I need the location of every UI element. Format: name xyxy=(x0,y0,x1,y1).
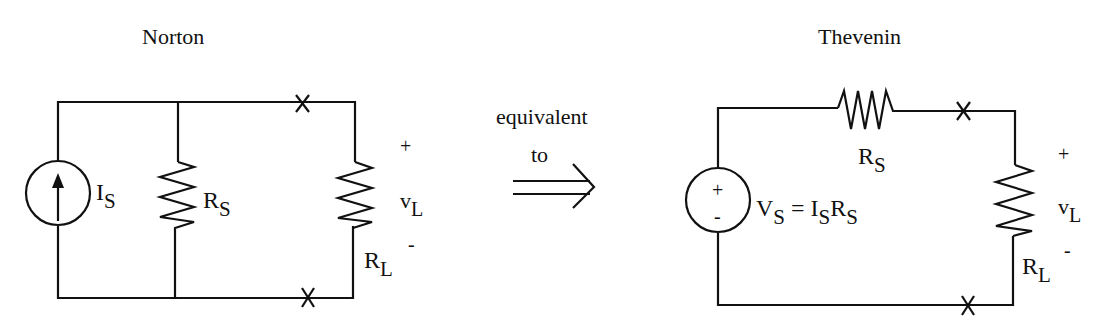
norton-rs-resistor xyxy=(160,162,194,298)
norton-current-source xyxy=(26,161,90,225)
thevenin-minus: - xyxy=(1064,240,1071,260)
thevenin-source-equation: VS = ISRS xyxy=(756,196,858,228)
norton-vl-label: vL xyxy=(400,190,423,219)
equivalent-label: equivalent xyxy=(496,106,588,128)
eq-v: V xyxy=(756,195,773,221)
thevenin-rs-resistor xyxy=(838,91,902,129)
norton-is-main: I xyxy=(96,179,104,205)
eq-i: I xyxy=(811,195,819,221)
circuit-diagram xyxy=(0,0,1114,333)
thevenin-vl-label: vL xyxy=(1058,196,1081,225)
norton-rl-resistor xyxy=(338,162,372,228)
eq-equals: = xyxy=(785,195,811,221)
norton-terminal-top-x xyxy=(296,95,309,112)
eq-r: R xyxy=(830,195,846,221)
current-arrow-icon xyxy=(52,173,64,188)
norton-rs-main: R xyxy=(203,187,219,213)
thevenin-rs-label: RS xyxy=(858,144,886,176)
thevenin-rl-sub: L xyxy=(1038,263,1051,287)
thevenin-vl-sub: L xyxy=(1069,204,1081,226)
norton-rs-label: RS xyxy=(203,188,231,220)
norton-source-label: IS xyxy=(96,180,116,212)
thevenin-plus: + xyxy=(1058,144,1069,164)
norton-left-wire-bottom xyxy=(58,226,353,298)
eq-v-sub: S xyxy=(773,205,785,229)
eq-i-sub: S xyxy=(819,205,831,229)
norton-rs-sub: S xyxy=(219,197,231,221)
norton-minus: - xyxy=(408,234,415,254)
thevenin-rl-resistor xyxy=(996,165,1032,236)
norton-is-sub: S xyxy=(104,189,116,213)
norton-vl-sub: L xyxy=(411,198,423,220)
norton-left-wire-top xyxy=(58,102,355,162)
thevenin-rs-sub: S xyxy=(874,153,886,177)
thevenin-source-minus: - xyxy=(714,206,721,226)
norton-circuit xyxy=(26,95,372,307)
norton-plus: + xyxy=(400,136,411,156)
thevenin-rl-label: RL xyxy=(1022,254,1051,286)
thevenin-rs-main: R xyxy=(858,143,874,169)
norton-title: Norton xyxy=(142,26,204,48)
thevenin-wire-bottom xyxy=(718,233,1013,305)
norton-rl-sub: L xyxy=(380,257,393,281)
thevenin-rl-main: R xyxy=(1022,253,1038,279)
thevenin-circuit xyxy=(686,91,1032,315)
norton-vl-main: v xyxy=(400,188,411,213)
thevenin-title: Thevenin xyxy=(818,26,901,48)
thevenin-vl-main: v xyxy=(1058,194,1069,219)
thevenin-wire-top-left xyxy=(718,108,838,168)
eq-r-sub: S xyxy=(846,205,858,229)
thevenin-source-plus: + xyxy=(712,180,723,200)
equivalence-arrow xyxy=(513,164,594,208)
norton-rl-main: R xyxy=(364,247,380,273)
to-label: to xyxy=(531,144,548,166)
norton-rl-label: RL xyxy=(364,248,393,280)
